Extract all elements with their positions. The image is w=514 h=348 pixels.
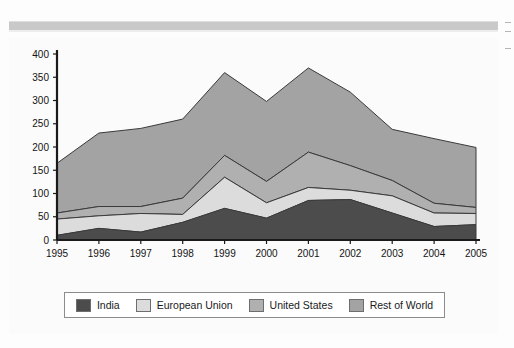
legend-swatch-united-states <box>249 299 264 312</box>
y-tick-label-250: 250 <box>32 118 49 129</box>
y-tick-label-150: 150 <box>32 165 49 176</box>
chart-legend: India European Union United States Rest … <box>64 292 445 318</box>
top-band-shadow <box>9 30 498 32</box>
y-tick-label-100: 100 <box>32 188 49 199</box>
legend-swatch-india <box>76 299 91 312</box>
legend-label-india: India <box>97 300 120 311</box>
legend-label-european-union: European Union <box>157 300 233 311</box>
x-tick-label-2000: 2000 <box>255 248 278 259</box>
right-edge-mark-3 <box>505 48 511 49</box>
legend-swatch-european-union <box>136 299 151 312</box>
x-tick-label-2001: 2001 <box>297 248 320 259</box>
right-edge-mark-2 <box>505 31 511 32</box>
x-tick-label-1999: 1999 <box>213 248 236 259</box>
x-tick-label-1996: 1996 <box>88 248 111 259</box>
y-tick-label-300: 300 <box>32 95 49 106</box>
x-tick-label-1998: 1998 <box>172 248 195 259</box>
x-tick-label-2005: 2005 <box>465 248 488 259</box>
legend-item-rest-of-world[interactable]: Rest of World <box>349 299 433 312</box>
plot-area: 0501001502002503003504001995199619971998… <box>9 38 498 278</box>
legend-swatch-rest-of-world <box>349 299 364 312</box>
right-edge-mark-1 <box>505 22 511 23</box>
y-tick-label-400: 400 <box>32 49 49 60</box>
x-tick-label-1995: 1995 <box>46 248 69 259</box>
x-tick-label-2003: 2003 <box>381 248 404 259</box>
legend-label-united-states: United States <box>270 300 333 311</box>
y-tick-label-50: 50 <box>38 211 50 222</box>
legend-label-rest-of-world: Rest of World <box>370 300 433 311</box>
y-tick-label-200: 200 <box>32 142 49 153</box>
y-tick-label-350: 350 <box>32 72 49 83</box>
legend-item-india[interactable]: India <box>76 299 120 312</box>
legend-item-united-states[interactable]: United States <box>249 299 333 312</box>
x-tick-label-1997: 1997 <box>130 248 153 259</box>
page-root: 0501001502002503003504001995199619971998… <box>0 0 514 348</box>
x-tick-label-2002: 2002 <box>339 248 362 259</box>
legend-item-european-union[interactable]: European Union <box>136 299 233 312</box>
stacked-area-chart: 0501001502002503003504001995199619971998… <box>9 38 498 278</box>
y-tick-label-0: 0 <box>43 235 49 246</box>
x-tick-label-2004: 2004 <box>423 248 446 259</box>
chart-figure: 0501001502002503003504001995199619971998… <box>9 38 498 334</box>
